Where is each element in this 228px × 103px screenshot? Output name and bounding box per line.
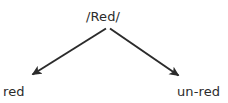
root-node-label: /Red/ [86,10,120,24]
derivation-tree-diagram: /Red/ red un-red [0,0,228,103]
branch-arrow-right [110,29,179,76]
leaf-node-label-left: red [3,85,25,99]
branch-arrow-left [33,29,107,75]
leaf-node-label-right: un-red [177,85,220,99]
